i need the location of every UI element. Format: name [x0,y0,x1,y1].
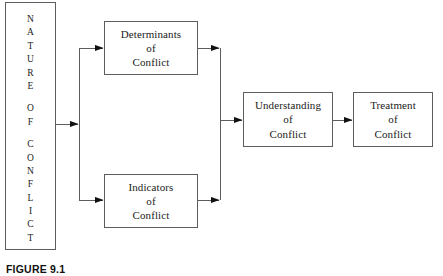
letter-N: N [27,13,34,26]
letter-A: A [27,26,34,39]
node-determinants-line3: Conflict [133,55,170,69]
letter-E: E [28,80,34,93]
letter-T: T [28,232,34,245]
node-understanding-of-conflict: Understanding of Conflict [243,92,333,147]
node-indicators-of-conflict: Indicators of Conflict [104,174,198,228]
node-determinants-of-conflict: Determinants of Conflict [104,21,198,75]
node-understanding-line1: Understanding [255,98,321,112]
letter-I: I [29,205,32,218]
figure-caption: FIGURE 9.1 [6,263,65,275]
node-nature-label: NATUREOFCONFLICT [27,13,34,245]
node-determinants-line2: of [146,41,155,55]
letter-U: U [27,53,34,66]
letter-F: F [28,116,33,129]
letter-L: L [28,192,34,205]
node-treatment-of-conflict: Treatment of Conflict [353,92,433,147]
node-indicators-line1: Indicators [129,180,174,194]
letter-T: T [28,40,34,53]
node-indicators-line2: of [146,194,155,208]
node-indicators-line3: Conflict [133,208,170,222]
node-determinants-line1: Determinants [121,27,181,41]
node-treatment-line3: Conflict [375,127,412,141]
node-understanding-line3: Conflict [270,127,307,141]
letter-R: R [27,67,33,80]
node-nature-of-conflict: NATUREOFCONFLICT [5,2,56,250]
letter-N: N [27,165,34,178]
figure-canvas: NATUREOFCONFLICT Determinants of Conflic… [0,0,443,276]
letter-C: C [27,218,33,231]
letter-F: F [28,178,33,191]
node-treatment-line2: of [388,112,397,126]
node-treatment-line1: Treatment [370,98,416,112]
letter-O: O [27,102,34,115]
letter-O: O [27,152,34,165]
node-understanding-line2: of [283,112,292,126]
letter-C: C [27,138,33,151]
